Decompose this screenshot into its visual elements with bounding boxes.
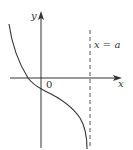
asymptote-label: x = a [94, 40, 120, 50]
function-graph-figure: y x 0 x = a [0, 0, 133, 150]
graph-canvas [0, 0, 133, 150]
x-axis-label: x [118, 79, 124, 89]
origin-label: 0 [46, 80, 52, 90]
y-axis-label: y [31, 11, 37, 21]
